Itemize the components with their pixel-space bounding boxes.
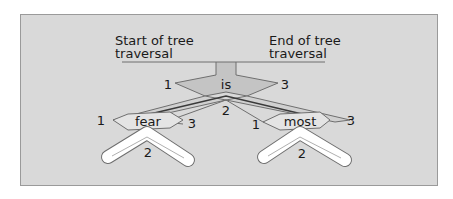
fear-visit-1: 1 [97, 113, 105, 128]
is-visit-2: 2 [222, 103, 230, 118]
fear-node-label: fear [135, 114, 162, 129]
end-label-line2: traversal [269, 46, 327, 61]
start-label-line2: traversal [115, 46, 173, 61]
most-visit-2: 2 [298, 146, 306, 161]
tree-traversal-diagram: Start of tree traversal End of tree trav… [0, 0, 453, 199]
most-visit-1: 1 [252, 117, 260, 132]
fear-visit-2: 2 [144, 145, 152, 160]
most-node-label: most [284, 114, 317, 129]
is-visit-1: 1 [164, 77, 172, 92]
most-visit-3: 3 [347, 113, 355, 128]
is-node-label: is [221, 77, 232, 92]
fear-visit-3: 3 [188, 116, 196, 131]
is-visit-3: 3 [281, 77, 289, 92]
